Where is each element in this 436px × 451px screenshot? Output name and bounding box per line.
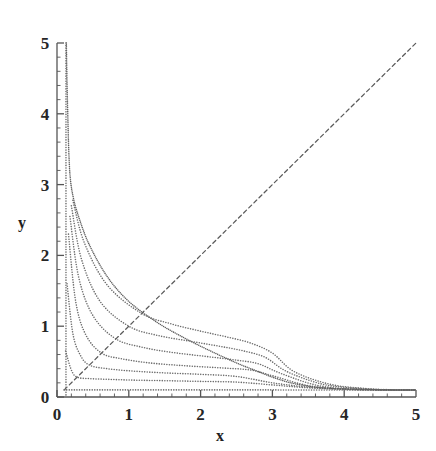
curve-dot: [97, 349, 99, 351]
curve-dot: [230, 368, 232, 370]
curve-dot: [136, 371, 138, 373]
curve-dot: [68, 143, 70, 145]
curve-dot: [65, 55, 67, 57]
curve-dot: [156, 380, 158, 382]
curve-dot: [255, 362, 257, 364]
curve-dot: [86, 336, 88, 338]
curve-dot: [244, 341, 246, 343]
curve-dot: [160, 324, 162, 326]
curve-dot: [251, 352, 253, 354]
curve-dot: [72, 236, 74, 238]
curve-dot: [260, 389, 262, 391]
curve-dot: [288, 389, 290, 391]
curve-dot: [270, 389, 272, 391]
curve-dot: [70, 316, 72, 318]
curve-dot: [65, 170, 67, 172]
curve-dot: [293, 377, 295, 379]
curve-dot: [97, 389, 99, 391]
curve-dot: [289, 380, 291, 382]
curve-dot: [75, 302, 77, 304]
x-tick-label: 1: [125, 405, 134, 424]
curve-dot: [100, 266, 102, 268]
curve-dot: [220, 381, 222, 383]
curve-dot: [87, 338, 89, 340]
curve-dot: [76, 304, 78, 306]
curve-dot: [67, 126, 69, 128]
curve-dot: [65, 343, 67, 345]
curve-dot: [131, 370, 133, 372]
curve-dot: [65, 305, 67, 307]
curve-dot: [233, 381, 235, 383]
curve-dot: [241, 350, 243, 352]
curve-dot: [98, 378, 100, 380]
curve-dot: [315, 382, 317, 384]
curve-dot: [186, 365, 188, 367]
curve-dot: [95, 293, 97, 295]
curve-dot: [65, 236, 67, 238]
curve-dot: [262, 373, 264, 375]
curve-dot: [280, 389, 282, 391]
curve-dot: [310, 378, 312, 380]
curve-dot: [388, 389, 390, 391]
curve-dot: [99, 325, 101, 327]
curve-dot: [198, 345, 200, 347]
curve-dot: [205, 331, 207, 333]
curve-dot: [242, 340, 244, 342]
curve-dot: [155, 389, 157, 391]
curve-dot: [232, 359, 234, 361]
curve-dot: [68, 147, 70, 149]
curve-dot: [242, 368, 244, 370]
curve-dot: [70, 321, 72, 323]
curve-dot: [181, 365, 183, 367]
curve-dot: [271, 369, 273, 371]
curve-dot: [69, 244, 71, 246]
curve-dot: [172, 372, 174, 374]
curve-dot: [225, 336, 227, 338]
curve-dot: [210, 381, 212, 383]
curve-dot: [183, 339, 185, 341]
curve-dot: [102, 389, 104, 391]
curve-dot: [115, 338, 117, 340]
curve-dot: [220, 367, 222, 369]
curve-dot: [65, 160, 67, 162]
curve-dot: [116, 357, 118, 359]
curve-dot: [65, 348, 67, 350]
curve-dot: [65, 205, 67, 207]
curve-dot: [65, 256, 67, 258]
curve-dot: [86, 303, 88, 305]
curve-dot: [65, 379, 67, 381]
curve-dot: [63, 389, 65, 391]
curve-dot: [80, 232, 82, 234]
curve-dot: [72, 196, 74, 198]
curve-dot: [70, 183, 72, 185]
curve-dot: [134, 370, 136, 372]
curve-dot: [338, 388, 340, 390]
curve-dot: [77, 212, 79, 214]
curve-dot: [171, 330, 173, 332]
curve-dot: [182, 380, 184, 382]
curve-dot: [209, 356, 211, 358]
curve-dot: [83, 232, 85, 234]
curve-dot: [393, 389, 395, 391]
curve-dot: [90, 246, 92, 248]
curve-dot: [81, 389, 83, 391]
curve-dot: [102, 278, 104, 280]
curve-dot: [390, 389, 392, 391]
curve-dot: [212, 381, 214, 383]
curve-dot: [68, 152, 70, 154]
curve-dot: [75, 207, 77, 209]
curve-dot: [90, 378, 92, 380]
curve-dot: [68, 298, 70, 300]
curve-dot: [75, 299, 77, 301]
curve-dot: [266, 381, 268, 383]
curve-dot: [189, 354, 191, 356]
curve-dot: [65, 371, 67, 373]
curve-dot: [209, 344, 211, 346]
curve-dot: [104, 273, 106, 275]
curve-dot: [78, 314, 80, 316]
curve-dot: [144, 380, 146, 382]
curve-dot: [337, 385, 339, 387]
curve-dot: [116, 288, 118, 290]
curve-dot: [90, 248, 92, 250]
curve-dot: [264, 366, 266, 368]
